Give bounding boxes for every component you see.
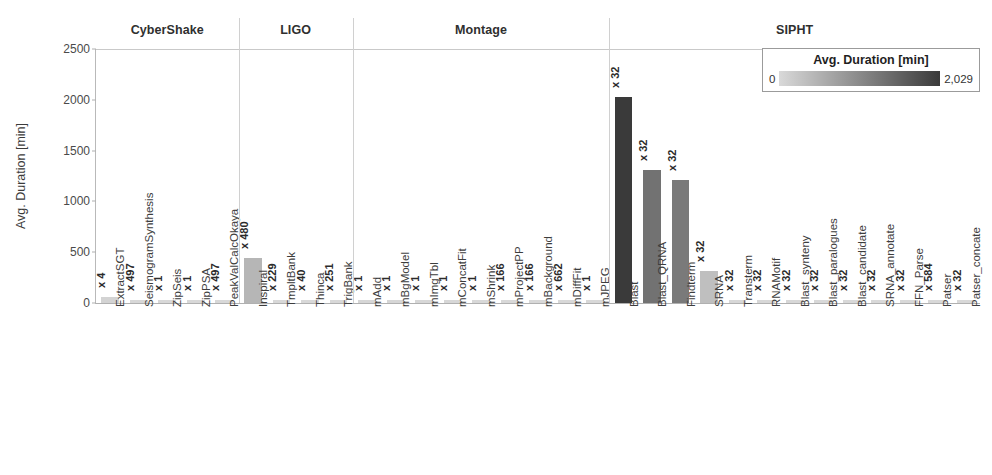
- x-axis-category-label: mDiffFit: [571, 268, 583, 307]
- chart-root: CyberShakeLIGOMontageSIPHT Avg. Duration…: [0, 0, 992, 475]
- legend-max-label: 2,029: [944, 73, 973, 85]
- x-axis-category-label: Thinca: [314, 272, 326, 307]
- x-axis-category-label: Findterm: [685, 262, 697, 307]
- group-separator: [609, 18, 610, 303]
- x-axis-category-label: TmpltBank: [285, 252, 297, 307]
- legend: Avg. Duration [min] 0 2,029: [762, 48, 980, 92]
- x-axis-category-label: Blast_paralogues: [827, 218, 839, 307]
- legend-color-gradient: [779, 71, 940, 86]
- legend-min-label: 0: [769, 73, 775, 85]
- x-axis-category-label: Patser: [941, 274, 953, 307]
- x-axis-category-label: mConcatFit: [456, 248, 468, 307]
- y-axis-tick-mark: [92, 150, 96, 151]
- bar-count-label: x 166: [501, 267, 513, 295]
- bar-count-label: x 1: [444, 280, 456, 295]
- legend-gradient-row: 0 2,029: [769, 71, 973, 86]
- y-axis-tick-label: 0: [83, 296, 90, 310]
- y-axis-tick-mark: [92, 99, 96, 100]
- bar-count-label: x 32: [644, 143, 656, 164]
- x-axis-category-label: Blast: [628, 281, 640, 307]
- x-axis-category-label: Blast_synteny: [799, 235, 811, 307]
- bar-count-label: x 32: [673, 154, 685, 175]
- bar-count-label: x 1: [159, 280, 171, 295]
- x-axis-category-label: FFN_Parse: [913, 248, 925, 307]
- y-axis-tick-label: 500: [70, 245, 90, 259]
- bar-count-label: x 1: [473, 280, 485, 295]
- workflow-group-header: Montage: [353, 18, 610, 49]
- bar-count-label: x 251: [330, 267, 342, 295]
- bar-count-label: x 1: [359, 280, 371, 295]
- bar-count-label: x 1: [416, 280, 428, 295]
- x-axis-category-label: Transterm: [742, 255, 754, 307]
- x-axis-category-label: mBackground: [542, 236, 554, 307]
- bar-count-label: x 584: [929, 267, 941, 295]
- y-axis-tick-mark: [92, 201, 96, 202]
- workflow-group-header: LIGO: [239, 18, 353, 49]
- x-axis-category-label: Blast_QRNA: [656, 242, 668, 307]
- y-axis-tick-label: 1000: [63, 194, 90, 208]
- x-axis-category-label: Inspiral: [257, 270, 269, 307]
- bar-count-label: x 32: [958, 274, 970, 295]
- x-axis-category-label: mProjectPP: [513, 246, 525, 307]
- y-axis-tick-mark: [92, 49, 96, 50]
- y-axis-tick-label: 1500: [63, 144, 90, 158]
- x-axis-category-label: RNAMotif: [770, 258, 782, 307]
- y-axis-title: Avg. Duration [min]: [14, 49, 30, 303]
- bar-count-label: x 32: [787, 274, 799, 295]
- legend-title: Avg. Duration [min]: [769, 52, 973, 68]
- bar-count-label: x 40: [302, 274, 314, 295]
- workflow-group-header: CyberShake: [96, 18, 239, 49]
- bar-count-label: x 32: [701, 245, 713, 266]
- bar-count-label: x 32: [901, 274, 913, 295]
- bar-count-label: x 229: [273, 267, 285, 295]
- x-axis-category-label: SRNA_annotate: [884, 224, 896, 307]
- x-axis-category-label: mImgTbl: [428, 262, 440, 307]
- group-separator: [239, 18, 240, 303]
- bar-count-label: x 32: [844, 274, 856, 295]
- x-axis-category-label: mShrink: [485, 265, 497, 307]
- bar-count-label: x 662: [559, 267, 571, 295]
- bar-count-label: x 1: [587, 280, 599, 295]
- y-axis-tick-label: 2000: [63, 93, 90, 107]
- bar-count-label: x 1: [387, 280, 399, 295]
- y-axis-tick-mark: [92, 303, 96, 304]
- bar[interactable]: [615, 97, 633, 303]
- group-separator: [353, 18, 354, 303]
- x-axis-category-label: mBgModel: [399, 252, 411, 307]
- x-axis-category-label: Blast_candidate: [856, 225, 868, 307]
- y-axis-tick-label: 2500: [63, 42, 90, 56]
- bar-count-label: x 480: [245, 225, 257, 253]
- bar-count-label: x 32: [815, 274, 827, 295]
- x-axis-category-label: mAdd: [371, 277, 383, 307]
- bar-count-label: x 497: [216, 267, 228, 295]
- bar-count-label: x 166: [530, 267, 542, 295]
- x-axis-category-label: Patser_concate: [970, 227, 982, 307]
- bar-count-label: x 497: [131, 267, 143, 295]
- bar-count-label: x 1: [188, 280, 200, 295]
- bar-count-label: x 32: [758, 274, 770, 295]
- workflow-group-header-band: CyberShakeLIGOMontageSIPHT: [96, 18, 980, 49]
- bar-count-label: x 32: [730, 274, 742, 295]
- x-axis-category-label: SRNA: [713, 275, 725, 307]
- x-axis-category-label: ZipPSA: [200, 268, 212, 307]
- bar-count-label: x 32: [872, 274, 884, 295]
- x-axis-category-label: ExtractSGT: [114, 248, 126, 307]
- bar-count-label: x 4: [102, 276, 114, 291]
- bar-count-label: x 32: [616, 70, 628, 91]
- x-axis-category-label: ZipSeis: [171, 269, 183, 307]
- workflow-group-header: SIPHT: [609, 18, 980, 49]
- x-axis-category-label: SeismogramSynthesis: [143, 193, 155, 307]
- y-axis-tick-mark: [92, 252, 96, 253]
